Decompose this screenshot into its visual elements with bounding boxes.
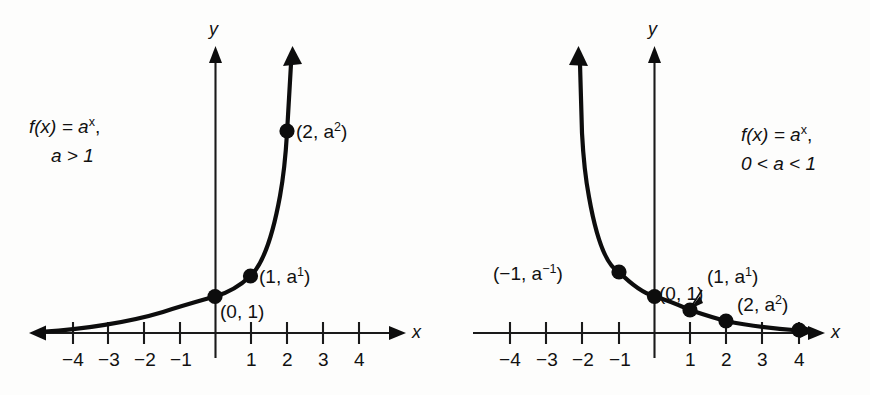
equation-line-2: a > 1 bbox=[29, 141, 100, 170]
x-tick-label--2: −2 bbox=[572, 348, 594, 372]
x-tick-label-2: 2 bbox=[721, 348, 732, 372]
point-label-0-1: (0, 1) bbox=[659, 282, 703, 306]
x-tick-label--4: −4 bbox=[499, 348, 521, 372]
x-tick-label--1: −1 bbox=[170, 348, 192, 372]
exponential-curve-increasing bbox=[45, 64, 291, 332]
x-tick-label--3: −3 bbox=[536, 348, 558, 372]
point-label--1-a-1: (−1, a−1) bbox=[493, 262, 563, 286]
point-label-1-a1: (1, a1) bbox=[707, 265, 758, 289]
y-axis-arrowhead bbox=[209, 46, 222, 63]
x-tick-label-3: 3 bbox=[757, 348, 768, 372]
equation-line-1: f(x) = ax, bbox=[29, 112, 100, 141]
point-marker-2-a2 bbox=[718, 313, 733, 328]
x-tick-label-3: 3 bbox=[318, 348, 329, 372]
exponential-graphs-figure: f(x) = ax, a > 1 y x −4 −3 −2 −1 1 2 3 4… bbox=[0, 0, 870, 395]
plot-canvas-right bbox=[435, 0, 870, 395]
x-tick-label-1: 1 bbox=[685, 348, 696, 372]
x-axis-left-arrowhead bbox=[29, 326, 46, 341]
plot-canvas-left bbox=[0, 0, 435, 395]
equation-line-1: f(x) = ax, bbox=[741, 120, 816, 149]
x-tick-label-4: 4 bbox=[354, 348, 365, 372]
point-label-2-a2: (2, a2) bbox=[296, 120, 347, 144]
x-tick-label-2: 2 bbox=[282, 348, 293, 372]
point-label-0-1: (0, 1) bbox=[220, 300, 264, 324]
x-tick-label-1: 1 bbox=[246, 348, 257, 372]
y-axis-label: y bbox=[648, 18, 657, 41]
x-tick-label--2: −2 bbox=[134, 348, 156, 372]
equation-line-2: 0 < a < 1 bbox=[741, 149, 816, 178]
equation-annotation-left: f(x) = ax, a > 1 bbox=[29, 112, 100, 171]
x-tick-label--3: −3 bbox=[98, 348, 120, 372]
x-tick-label--4: −4 bbox=[62, 348, 84, 372]
equation-annotation-right: f(x) = ax, 0 < a < 1 bbox=[741, 120, 816, 179]
curve-top-arrowhead bbox=[283, 46, 302, 66]
graph-panel-increasing: f(x) = ax, a > 1 y x −4 −3 −2 −1 1 2 3 4… bbox=[0, 0, 435, 395]
point-marker-4 bbox=[791, 322, 806, 337]
graph-panel-decreasing: f(x) = ax, 0 < a < 1 y x −4 −3 −2 −1 1 2… bbox=[435, 0, 870, 395]
point-marker--1-a-1 bbox=[611, 264, 626, 279]
point-marker-1-a1 bbox=[243, 268, 258, 283]
x-axis-label: x bbox=[831, 321, 840, 344]
point-label-2-a2: (2, a2) bbox=[737, 293, 788, 317]
x-axis-label: x bbox=[412, 321, 421, 344]
curve-top-arrowhead bbox=[569, 46, 588, 66]
y-axis-arrowhead bbox=[648, 46, 661, 63]
point-label-1-a1: (1, a1) bbox=[259, 265, 310, 289]
x-axis-right-arrowhead bbox=[389, 326, 406, 340]
y-axis-label: y bbox=[209, 18, 218, 41]
point-marker-2-a2 bbox=[279, 123, 294, 138]
x-tick-label--1: −1 bbox=[609, 348, 631, 372]
x-tick-label-4: 4 bbox=[794, 348, 805, 372]
